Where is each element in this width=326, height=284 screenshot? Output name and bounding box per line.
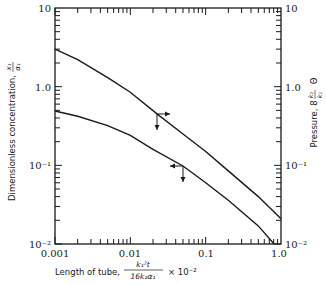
y-left-tick-0.01: 10⁻²	[29, 239, 51, 250]
y-right-tick-10: 10	[285, 3, 298, 14]
y-left-tick-1.0: 1.0	[35, 82, 51, 93]
x-axis-multiplier: × 10⁻²	[168, 267, 197, 277]
axis-ticks	[55, 8, 281, 244]
data-curves	[55, 49, 281, 244]
x-axis-frac-denominator: 16k₂α₁	[131, 272, 156, 281]
y-right-frac-numerator: k₂	[307, 91, 315, 98]
plot-frame	[55, 8, 281, 244]
y-right-tick-labels: 10⁻² 10⁻¹ 1.0 10	[285, 3, 307, 250]
x-tick-0.01: 0.01	[119, 248, 141, 259]
x-tick-0.1: 0.1	[198, 248, 214, 259]
y-right-tick-0.01: 10⁻²	[285, 239, 307, 250]
y-left-tick-10: 10	[38, 3, 51, 14]
pressure-curve	[55, 49, 281, 219]
left-axis-arrow-icon	[170, 164, 186, 183]
y-left-tick-labels: 10⁻² 10⁻¹ 1.0 10	[29, 3, 51, 250]
y-left-frac-numerator: x₁	[5, 63, 13, 71]
concentration-curve	[55, 111, 274, 244]
x-tick-labels: 0.001 0.01 0.1 1.0	[41, 248, 287, 259]
log-log-chart: 0.001 0.01 0.1 1.0 10⁻² 10⁻¹ 1.0 10 10⁻²…	[0, 0, 326, 284]
axis-indicators	[155, 111, 186, 182]
y-right-axis-label-text: Pressure, 8	[309, 100, 319, 147]
theta-symbol: Θ	[309, 77, 319, 84]
y-left-frac-denominator: α₁	[14, 63, 22, 71]
y-right-tick-1.0: 1.0	[285, 82, 301, 93]
y-left-axis-label-text: Dimensionless concentration,	[7, 75, 17, 201]
y-left-tick-0.1: 10⁻¹	[29, 160, 51, 171]
y-right-frac-denominator: k₁	[316, 91, 324, 98]
y-left-axis-label: Dimensionless concentration, x₁ α₁	[5, 62, 22, 201]
right-axis-arrow-icon	[155, 111, 171, 130]
x-axis-label-text: Length of tube,	[55, 267, 120, 277]
x-axis-frac-numerator: k₁²t	[136, 260, 150, 269]
y-right-axis-label: Pressure, 8 k₂ k₁ Θ	[307, 77, 324, 147]
x-axis-label: Length of tube, k₁²t 16k₂α₁ × 10⁻²	[55, 260, 197, 281]
y-right-tick-0.1: 10⁻¹	[285, 160, 307, 171]
